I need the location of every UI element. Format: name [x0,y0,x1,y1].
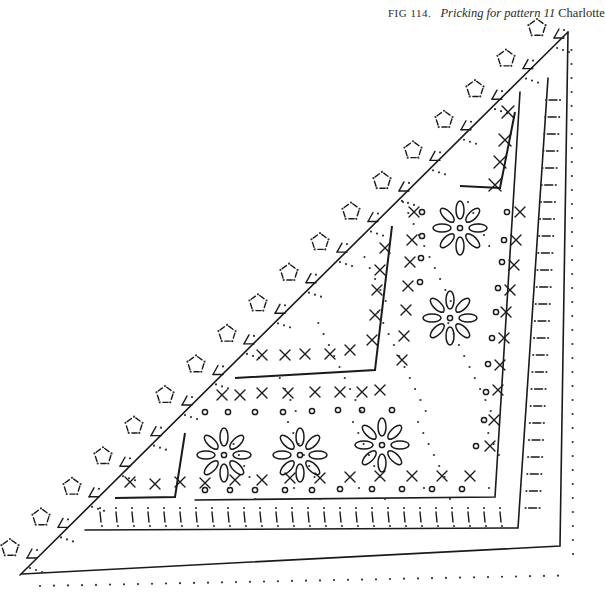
dash-mark [481,88,483,93]
pinhole [478,223,480,225]
pinhole [435,507,437,509]
ring-mark [418,255,423,260]
pinhole [542,150,544,152]
dash-mark [78,486,80,491]
petal-mark [433,224,451,232]
pinhole [444,173,446,175]
pinhole [265,299,267,301]
dash-mark [158,388,162,391]
cross-mark [285,473,295,483]
pinhole [474,377,476,379]
dash-mark [2,548,4,553]
pinhole [197,525,199,527]
pinhole [377,212,379,214]
pinhole [288,263,290,265]
pinhole [453,525,455,527]
ring-mark [389,407,394,412]
dash-mark [530,21,534,24]
pinhole [527,456,529,458]
pinhole [468,366,470,368]
pinhole [253,335,255,337]
dash-mark [306,274,311,283]
dash-mark [228,512,229,522]
cross-mark [280,350,290,360]
pinhole [129,457,131,459]
pinhole [369,267,371,269]
pinhole [283,279,285,281]
pinhole [531,79,533,81]
dash-mark [523,60,528,69]
pinhole [501,525,503,527]
pinhole [134,479,136,481]
ring-mark [202,409,207,414]
pinhole [572,497,574,499]
pinhole [66,493,68,495]
pinhole [245,525,247,527]
pinhole [438,465,440,467]
pinhole [257,293,259,295]
pinhole [451,116,453,118]
pinhole [550,269,552,271]
dash-mark [65,480,69,483]
pinhole [354,399,356,401]
pinhole [571,119,573,121]
pinhole [357,525,359,527]
dash-mark [213,365,218,374]
pinhole [41,571,43,573]
pinhole [99,507,101,509]
dash-mark [251,296,255,299]
dash-mark [357,211,359,216]
pinhole [323,507,325,509]
cross-mark [335,387,345,397]
pinhole [547,337,549,339]
cross-mark [405,257,415,267]
dash-mark [33,518,35,523]
petal-mark [464,206,482,224]
pinhole [496,55,498,57]
cross-mark [407,471,417,481]
pinhole [545,371,547,373]
ring-mark [225,409,230,414]
dash-mark [529,28,531,33]
pinhole [293,279,295,281]
ring-mark [297,452,302,457]
dash-mark [452,512,453,522]
petal-mark [304,433,322,451]
dash-mark [127,419,131,422]
pinhole [499,507,501,509]
pinhole [375,578,377,580]
pinhole [571,315,573,317]
pinhole [249,581,251,583]
pinhole [172,391,174,393]
pinhole [378,476,380,478]
pinhole [370,230,372,232]
dash-mark [43,510,47,513]
dash-mark [244,512,245,522]
pinhole [541,456,543,458]
dash-mark [100,512,101,522]
pinhole [67,584,69,586]
cross-mark [511,235,521,245]
pinhole [483,507,485,509]
petal-mark [386,423,404,441]
petal-mark [423,314,441,322]
pinhole [314,248,316,250]
pinhole [279,377,281,379]
cross-mark [407,235,417,245]
pinhole [217,330,219,332]
pinhole [124,422,126,424]
pinhole [388,333,390,335]
pinhole [570,49,572,51]
pinhole [109,584,111,586]
pinhole [128,432,130,434]
petal-mark [304,459,322,477]
pinhole [102,446,104,448]
pinhole [319,579,321,581]
pinhole [428,443,430,445]
dash-mark [484,512,485,522]
cross-mark [409,207,419,217]
pinhole [543,575,545,577]
pinhole [488,487,490,489]
petal-mark [202,459,220,477]
pinhole [479,388,481,390]
